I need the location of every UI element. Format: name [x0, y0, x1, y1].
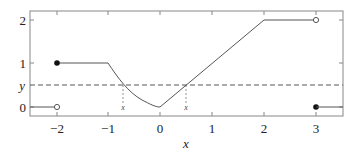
y-tick-label: 2	[20, 13, 27, 28]
open-circle-marker	[313, 17, 318, 22]
preimage-label-left: x	[120, 103, 125, 112]
x-axis-label: x	[182, 136, 189, 149]
open-circle-marker	[54, 104, 59, 109]
x-tick-label: −2	[50, 121, 64, 136]
y-level-label: y	[17, 78, 25, 93]
x-tick-label: 2	[261, 121, 268, 136]
x-tick-label: 1	[209, 121, 216, 136]
x-tick-label: 0	[157, 121, 164, 136]
y-tick-label: 1	[20, 56, 27, 71]
filled-circle-marker	[54, 60, 60, 66]
main-curve	[57, 20, 313, 107]
x-tick-label: 3	[313, 121, 320, 136]
x-tick-label: −1	[101, 121, 115, 136]
function-plot: −2 −1 0 1 2 3 0 1 2 y x x x	[0, 0, 361, 149]
y-tick-label: 0	[20, 100, 27, 115]
preimage-label-right: x	[183, 103, 188, 112]
